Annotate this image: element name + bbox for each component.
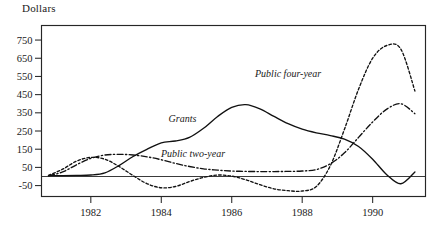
series-line-grants bbox=[49, 105, 415, 184]
tick-marks-group bbox=[35, 40, 373, 203]
line-chart: Dollars 75065055045035025015050-50 19821… bbox=[0, 0, 440, 231]
x-tick-label: 1990 bbox=[362, 207, 383, 218]
series-label-public-two-year: Public two-year bbox=[160, 148, 225, 159]
y-tick-label: 550 bbox=[17, 71, 33, 82]
x-tick-label: 1986 bbox=[221, 207, 242, 218]
x-axis-labels-group: 19821984198619881990 bbox=[80, 207, 383, 218]
x-tick-label: 1988 bbox=[292, 207, 313, 218]
x-tick-label: 1984 bbox=[151, 207, 173, 218]
y-tick-label: 650 bbox=[17, 53, 33, 64]
series-line-public-two-year bbox=[49, 104, 415, 176]
series-curves-group bbox=[49, 44, 415, 191]
x-tick-label: 1982 bbox=[80, 207, 101, 218]
series-annotations-group: GrantsPublic two-yearPublic four-year bbox=[160, 68, 321, 159]
y-tick-label: 750 bbox=[17, 35, 33, 46]
y-tick-label: 450 bbox=[17, 89, 33, 100]
y-tick-label: 250 bbox=[17, 126, 33, 137]
series-label-public-four-year: Public four-year bbox=[254, 68, 321, 79]
y-tick-label: 150 bbox=[17, 144, 33, 155]
y-axis-labels-group: 75065055045035025015050-50 bbox=[17, 35, 33, 192]
y-tick-label: -50 bbox=[19, 180, 33, 191]
y-tick-label: 350 bbox=[17, 107, 33, 118]
series-line-public-four-year bbox=[49, 44, 415, 191]
chart-canvas: 75065055045035025015050-50 1982198419861… bbox=[0, 0, 440, 231]
y-tick-label: 50 bbox=[22, 162, 33, 173]
series-label-grants: Grants bbox=[169, 113, 197, 124]
